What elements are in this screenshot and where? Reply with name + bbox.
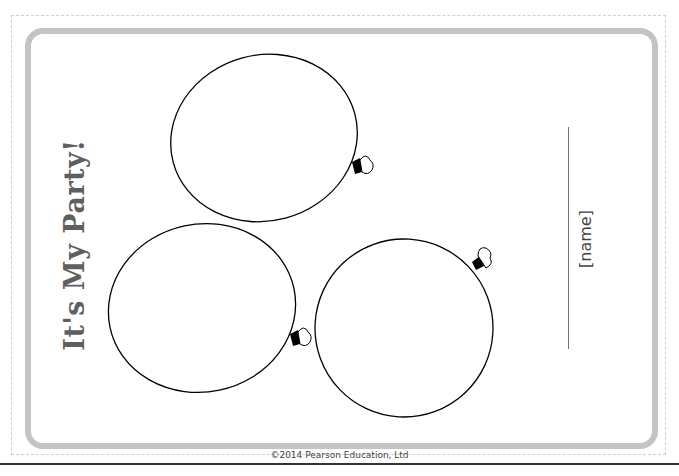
balloon-knot-icon [472, 248, 491, 270]
name-label: [name] [576, 210, 595, 268]
balloon-knot-icon [352, 156, 373, 174]
balloon-knot-icon [290, 328, 311, 346]
balloon-right [286, 210, 523, 447]
copyright-text: ©2014 Pearson Education, Ltd [0, 450, 679, 460]
balloon-top [152, 33, 377, 242]
name-writing-line [568, 127, 569, 349]
footer-rule [0, 463, 679, 465]
balloon-left [93, 206, 312, 409]
